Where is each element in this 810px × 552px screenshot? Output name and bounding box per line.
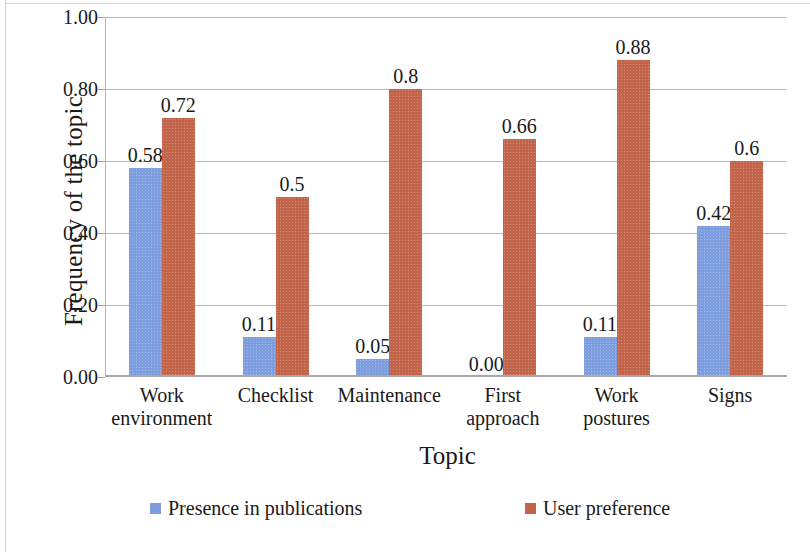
x-axis-category-label-line: postures [560,407,674,430]
x-axis-category-label: Signs [673,384,787,407]
bar[interactable] [697,226,730,377]
y-axis-tickmark [98,305,105,306]
legend-color-swatch [525,503,536,514]
bars-layer: 0.580.720.110.50.050.80.000.660.110.880.… [105,17,787,377]
bar-value-label: 0.88 [597,37,670,57]
x-axis-category-label-line: Signs [673,384,787,407]
legend-item[interactable]: User preference [525,497,670,519]
bar[interactable] [276,197,309,377]
bar-value-label: 0.6 [710,138,783,158]
y-axis-tick-labels: 0.000.200.400.600.801.00 [10,0,98,552]
bar-group: 0.050.8 [356,17,422,377]
y-axis-tickmark [98,233,105,234]
x-axis-line [105,375,787,377]
bar-group: 0.000.66 [470,17,536,377]
y-axis-tick-label: 0.20 [14,295,98,315]
x-axis-category-label: Firstapproach [446,384,560,430]
y-axis-tick-label: 0.00 [14,367,98,387]
bar[interactable] [129,168,162,377]
y-axis-tickmark [98,89,105,90]
x-axis-category-label: Maintenance [332,384,446,407]
bar[interactable] [162,118,195,377]
legend-label: Presence in publications [168,497,362,519]
legend-label: User preference [543,497,670,519]
y-axis-tickmark [98,17,105,18]
x-axis-category-label-line: environment [105,407,219,430]
bar-value-label: 0.66 [483,116,556,136]
bar[interactable] [503,139,536,377]
x-axis-category-label: Workpostures [560,384,674,430]
x-axis-category-label-line: Work [560,384,674,407]
y-axis-tick-label: 0.40 [14,223,98,243]
bar[interactable] [584,337,617,377]
x-axis-category-label-line: Maintenance [332,384,446,407]
bar-chart-figure: Frequency of the topic 0.000.200.400.600… [0,0,810,552]
y-axis-tickmark [98,377,105,378]
bar-group: 0.110.88 [584,17,650,377]
y-axis-tick-label: 1.00 [14,7,98,27]
plot-area: 0.580.720.110.50.050.80.000.660.110.880.… [105,17,787,377]
bar[interactable] [243,337,276,377]
x-axis-category-label: Checklist [219,384,333,407]
x-axis-category-label-line: approach [446,407,560,430]
bar-value-label: 0.5 [256,174,329,194]
x-axis-category-label-line: Work [105,384,219,407]
x-axis-category-label-line: Checklist [219,384,333,407]
x-axis-title: Topic [105,442,790,470]
y-axis-tick-label: 0.60 [14,151,98,171]
y-axis-tickmark [98,161,105,162]
chart-legend: Presence in publicationsUser preference [105,497,787,527]
x-axis-category-labels: WorkenvironmentChecklistMaintenanceFirst… [105,384,787,444]
bar-group: 0.110.5 [243,17,309,377]
x-axis-category-label: Workenvironment [105,384,219,430]
legend-item[interactable]: Presence in publications [150,497,362,519]
bar[interactable] [730,161,763,377]
bar-value-label: 0.72 [142,95,215,115]
bar[interactable] [389,89,422,377]
bar-group: 0.420.6 [697,17,763,377]
legend-color-swatch [150,503,161,514]
bar-group: 0.580.72 [129,17,195,377]
y-axis-tick-label: 0.80 [14,79,98,99]
x-axis-category-label-line: First [446,384,560,407]
bar-value-label: 0.8 [369,66,442,86]
bar[interactable] [617,60,650,377]
